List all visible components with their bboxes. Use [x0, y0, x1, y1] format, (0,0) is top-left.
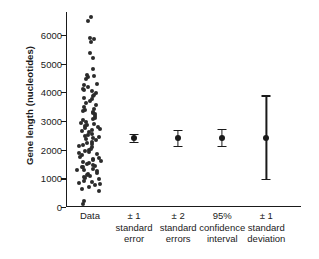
data-point — [95, 171, 99, 175]
data-point — [85, 162, 89, 166]
plot-area — [66, 12, 301, 207]
data-point — [91, 67, 95, 71]
data-point — [97, 177, 101, 181]
data-point — [82, 96, 86, 100]
data-point — [80, 129, 84, 133]
data-point — [75, 168, 79, 172]
mean-marker — [219, 135, 225, 141]
x-axis-category-labels: Data± 1standarderror± 2standarderrors95%… — [66, 210, 301, 256]
mean-marker — [175, 135, 181, 141]
data-point — [98, 127, 102, 131]
error-bar-cap — [262, 179, 271, 180]
data-point — [99, 159, 103, 163]
y-tick — [61, 150, 66, 151]
data-point — [87, 150, 91, 154]
data-point — [85, 141, 89, 145]
data-point — [98, 182, 102, 186]
data-point — [87, 185, 91, 189]
data-point — [91, 56, 95, 60]
y-tick-label: 6000 — [41, 29, 62, 40]
error-bar-cap — [262, 95, 271, 96]
data-point — [81, 202, 85, 206]
x-category-label-line: ± 1 — [234, 210, 298, 222]
error-bar — [128, 12, 140, 207]
error-bar-cap — [218, 146, 227, 147]
data-point — [86, 85, 90, 89]
error-bar-cap — [218, 129, 227, 130]
data-point — [97, 135, 101, 139]
data-point — [93, 183, 97, 187]
y-axis-line — [66, 12, 67, 207]
error-bar-cap — [174, 146, 183, 147]
y-tick — [61, 35, 66, 36]
error-bar — [172, 12, 184, 207]
y-tick — [61, 207, 66, 208]
x-category-label: ± 1standarddeviation — [234, 210, 298, 245]
data-point — [91, 158, 95, 162]
y-tick-label: 5000 — [41, 58, 62, 69]
data-point — [88, 99, 92, 103]
mean-marker — [263, 135, 269, 141]
data-point — [88, 51, 92, 55]
data-point — [95, 82, 99, 86]
y-tick-label: 2000 — [41, 144, 62, 155]
y-axis-tick-labels: 0100020003000400050006000 — [0, 12, 62, 207]
mean-marker — [131, 135, 137, 141]
data-point — [77, 144, 81, 148]
data-point — [92, 74, 96, 78]
error-bar-cap — [174, 130, 183, 131]
data-point — [86, 19, 90, 23]
data-point — [82, 179, 86, 183]
data-point — [90, 132, 94, 136]
y-tick — [61, 178, 66, 179]
y-tick — [61, 64, 66, 65]
data-point — [77, 181, 81, 185]
data-point — [84, 77, 88, 81]
y-tick — [61, 121, 66, 122]
figure-container: Gene length (nucleotides) 01000200030004… — [0, 0, 319, 259]
y-tick-label: 1000 — [41, 173, 62, 184]
x-category-label-line: standard — [234, 222, 298, 234]
data-point — [81, 109, 85, 113]
data-point — [89, 40, 93, 44]
data-point — [81, 143, 85, 147]
data-point — [80, 187, 84, 191]
y-tick-label: 3000 — [41, 115, 62, 126]
data-point — [78, 155, 82, 159]
y-tick-label: 4000 — [41, 87, 62, 98]
data-point — [88, 174, 92, 178]
data-point — [82, 88, 86, 92]
data-point — [97, 189, 101, 193]
x-category-label-line: deviation — [234, 233, 298, 245]
error-bar-cap — [130, 142, 139, 143]
y-tick — [61, 92, 66, 93]
error-bar — [216, 12, 228, 207]
data-point — [91, 117, 95, 121]
error-bar — [260, 12, 272, 207]
